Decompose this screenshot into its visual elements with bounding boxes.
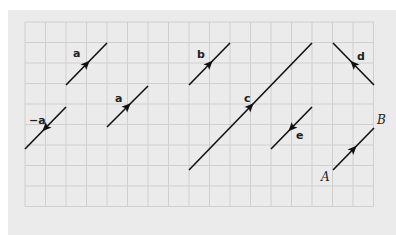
vector-label: a xyxy=(115,92,122,105)
vector-label: −a xyxy=(29,114,46,127)
vector-label: a xyxy=(73,47,80,60)
vector-label: b xyxy=(197,48,205,61)
vector-label: e xyxy=(296,129,303,142)
point-label-B: B xyxy=(376,113,386,127)
vector-diagram: aa−abcde AB xyxy=(0,0,396,235)
vector-label: c xyxy=(244,92,251,105)
vector-label: d xyxy=(357,50,365,63)
point-label-A: A xyxy=(320,170,330,184)
vectors: aa−abcde xyxy=(25,43,374,170)
